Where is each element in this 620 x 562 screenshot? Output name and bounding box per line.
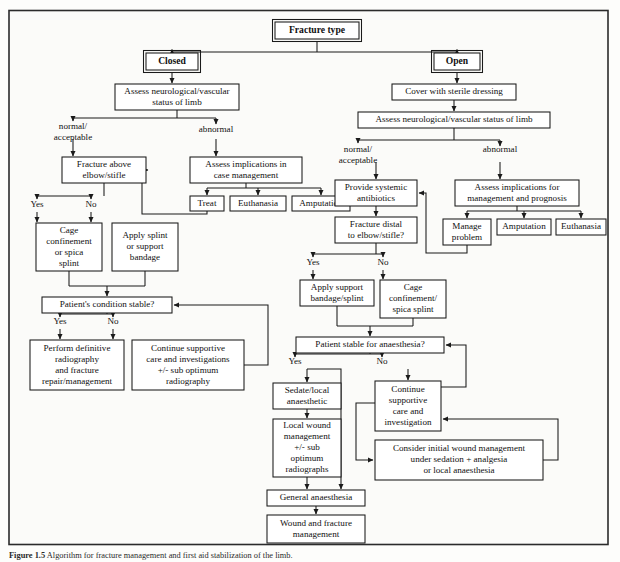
edge-label-closed_normal: acceptable xyxy=(54,132,92,142)
node-cage_conf_o: Cageconfinement/spica splint xyxy=(380,280,446,318)
node-amputation_o: Amputation xyxy=(497,219,551,235)
node-label: radiography xyxy=(55,354,99,364)
node-label: Continue supportive xyxy=(151,343,225,353)
node-label: Fracture above xyxy=(77,159,131,169)
node-label: Euthanasia xyxy=(238,198,278,208)
node-fracture_type: Fracture type xyxy=(273,20,362,42)
node-cont_supp_l: Continue supportivecare and investigatio… xyxy=(132,340,244,390)
node-label: Manage xyxy=(452,221,481,231)
node-label: anaesthetic xyxy=(287,396,327,406)
node-label: or spica xyxy=(55,247,84,257)
node-label: management xyxy=(293,529,340,539)
node-label: under sedation + analgesia xyxy=(411,454,508,464)
node-label: Wound and fracture xyxy=(280,518,352,528)
node-label: Closed xyxy=(158,55,186,66)
node-label: Cage xyxy=(404,282,423,292)
node-label: optimum xyxy=(291,453,324,463)
node-label: bandage/splint xyxy=(310,293,364,303)
node-euthanasia_o: Euthanasia xyxy=(556,219,606,235)
node-label: supportive xyxy=(389,395,427,405)
edge-label-anaes_no: No xyxy=(376,356,388,366)
node-provide_ab: Provide systemicantibiotics xyxy=(335,180,417,206)
edge-label-open_abnormal: abnormal xyxy=(483,144,518,154)
node-label: and fracture xyxy=(55,365,99,375)
node-open: Open xyxy=(432,51,483,73)
node-label: radiographs xyxy=(286,464,329,474)
node-wound_frac: Wound and fracturemanagement xyxy=(267,515,365,543)
flowchart-canvas: Fracture typeClosedOpenAssess neurologic… xyxy=(0,0,620,562)
edge-label-open_normal: normal/ xyxy=(344,144,373,154)
node-label: Local wound xyxy=(283,420,331,430)
node-label: Patient's condition stable? xyxy=(60,299,155,309)
edge-label-distal_yes: Yes xyxy=(306,257,320,267)
node-cage_conf_l: Cageconfinementor spicasplint xyxy=(36,223,102,271)
node-closed: Closed xyxy=(144,51,201,73)
node-label: +/- sub xyxy=(294,442,320,452)
node-frac_above: Fracture aboveelbow/stifle xyxy=(62,157,146,183)
node-perform_def: Perform definitiveradiographyand fractur… xyxy=(30,340,124,390)
node-label: Patient stable for anaesthesia? xyxy=(315,339,424,349)
node-label: antibiotics xyxy=(357,193,395,203)
edge-label-open_normal: acceptable xyxy=(339,155,377,165)
node-label: Perform definitive xyxy=(44,343,111,353)
edge-label-anaes_yes: Yes xyxy=(288,356,302,366)
node-label: spica splint xyxy=(392,304,434,314)
node-gen_anaes: General anaesthesia xyxy=(267,490,365,506)
edge-label-closed_normal: normal/ xyxy=(59,121,88,131)
node-label: investigation xyxy=(385,417,432,427)
node-label: elbow/stifle xyxy=(83,170,126,180)
edge-label-stable_l_yes: Yes xyxy=(53,316,67,326)
node-label: or support xyxy=(126,241,164,251)
node-label: care and xyxy=(393,406,424,416)
node-label: splint xyxy=(59,258,80,268)
edge-label-closed_abnormal: abnormal xyxy=(199,124,234,134)
node-assess_impl_c: Assess implications incase management xyxy=(190,157,302,183)
node-label: bandage xyxy=(130,252,160,262)
node-label: status of limb xyxy=(152,97,202,107)
node-label: to elbow/stifle? xyxy=(348,230,404,240)
node-open_assess: Assess neurological/vascular status of l… xyxy=(358,112,550,128)
node-label: Treat xyxy=(198,198,217,208)
node-label: Sedate/local xyxy=(285,385,330,395)
node-label: Fracture type xyxy=(289,24,346,35)
edge-label-distal_no: No xyxy=(377,257,389,267)
node-label: Apply support xyxy=(311,282,364,292)
node-label: Assess implications in xyxy=(205,159,287,169)
node-label: Apply splint xyxy=(122,230,168,240)
node-label: Assess neurological/vascular xyxy=(124,86,229,96)
node-cont_supp_o: Continuesupportivecare andinvestigation xyxy=(375,381,441,431)
node-label: Assess neurological/vascular status of l… xyxy=(375,114,533,124)
edge-label-frac_above_yes: Yes xyxy=(30,199,44,209)
node-label: Cover with sterile dressing xyxy=(405,86,503,96)
node-frac_distal: Fracture distalto elbow/stifle? xyxy=(335,217,417,243)
node-closed_assess: Assess neurological/vascularstatus of li… xyxy=(115,84,239,110)
node-label: Amputation xyxy=(502,221,546,231)
node-label: or local anaesthesia xyxy=(423,465,494,475)
node-consider_init: Consider initial wound managementunder s… xyxy=(375,440,543,480)
figure-page: Fracture typeClosedOpenAssess neurologic… xyxy=(0,0,620,562)
node-label: care and investigations xyxy=(146,354,230,364)
node-label: management and prognosis xyxy=(467,193,567,203)
node-label: management xyxy=(284,431,331,441)
node-label: General anaesthesia xyxy=(280,492,352,502)
node-treat: Treat xyxy=(190,196,224,211)
node-label: Provide systemic xyxy=(345,182,407,192)
node-manage_prob: Manageproblem xyxy=(443,219,491,245)
node-apply_splint_l: Apply splintor supportbandage xyxy=(112,223,178,271)
node-label: Consider initial wound management xyxy=(393,443,526,453)
edge-label-stable_l_no: No xyxy=(107,316,119,326)
node-label: Open xyxy=(446,55,469,66)
node-label: confinement/ xyxy=(389,293,437,303)
edge-label-frac_above_no: No xyxy=(85,199,97,209)
figure-caption: Figure 1.5 Algorithm for fracture manage… xyxy=(9,551,609,560)
node-label: problem xyxy=(452,232,482,242)
node-label: Assess implications for xyxy=(475,182,560,192)
node-label: Continue xyxy=(391,384,424,394)
node-local_wound: Local woundmanagement+/- suboptimumradio… xyxy=(273,419,341,477)
caption-text: Algorithm for fracture management and fi… xyxy=(47,551,293,560)
node-label: case management xyxy=(214,170,279,180)
node-apply_supp_o: Apply supportbandage/splint xyxy=(300,280,374,306)
caption-label: Figure 1.5 xyxy=(9,551,45,560)
node-pat_stable_l: Patient's condition stable? xyxy=(42,297,172,313)
node-sedate_local: Sedate/localanaesthetic xyxy=(273,383,341,409)
